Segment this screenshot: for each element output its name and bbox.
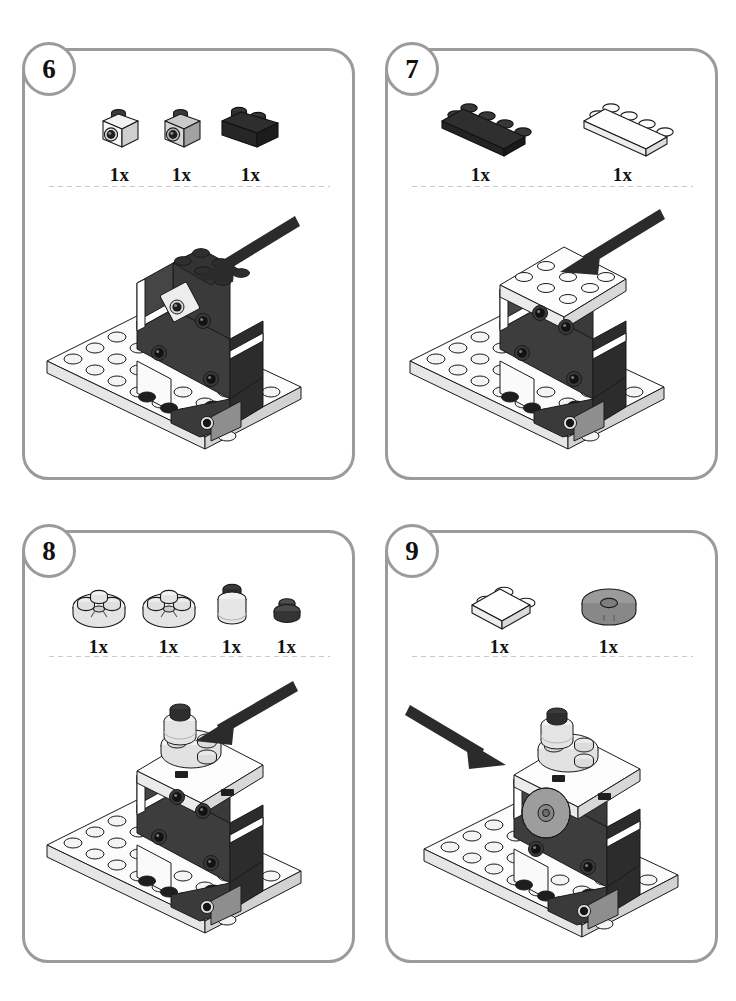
part-icon-brick-1x2-black [216, 95, 286, 157]
part-round-plate-2x2-white-b: 1x [136, 567, 202, 658]
parts-separator [410, 185, 693, 188]
step-badge-7: 7 [385, 42, 439, 96]
parts-row-6: 1x [25, 95, 352, 186]
step-panel-8: 1x [22, 530, 355, 963]
step-panel-7: 1x [385, 48, 718, 480]
assembly-arrow [195, 681, 298, 745]
parts-separator [47, 185, 330, 188]
part-icon-round-brick-1x1-white [211, 567, 253, 629]
step-number: 7 [405, 56, 419, 83]
assembly-model-6 [25, 201, 352, 476]
part-round-tile-2x2-gray: 1x [576, 567, 642, 658]
part-icon-plate-2x4-black [433, 95, 529, 157]
round-tile-on-model [522, 788, 570, 838]
parts-row-8: 1x [25, 567, 352, 658]
part-plate-2x2-white: 1x [462, 567, 538, 658]
parts-row-7: 1x [388, 95, 715, 186]
parts-bin-9: 1x 1x [388, 567, 715, 687]
part-qty: 1x [172, 164, 192, 186]
part-plate-2x4-black: 1x [433, 95, 529, 186]
parts-separator [47, 655, 330, 658]
assembly-model-7 [388, 201, 715, 476]
parts-bin-8: 1x [25, 567, 352, 687]
part-round-brick-1x1-white: 1x [206, 567, 258, 658]
step-number: 6 [42, 56, 56, 83]
part-icon-round-plate-1x1-dark [268, 567, 306, 629]
part-icon-round-plate-2x2-white-a [69, 567, 129, 629]
instruction-page: 1x [0, 0, 736, 1001]
assembly-arrow [405, 705, 506, 769]
assembly-arrow [560, 209, 665, 275]
parts-separator [410, 655, 693, 658]
step-badge-8: 8 [22, 524, 76, 578]
part-headlight-brick-white: 1x [89, 95, 151, 186]
part-round-plate-2x2-white-a: 1x [66, 567, 132, 658]
part-qty: 1x [613, 164, 633, 186]
part-icon-plate-2x2-white [462, 567, 538, 629]
step-number: 8 [42, 538, 56, 565]
part-icon-headlight-brick-gray [157, 95, 207, 157]
parts-row-9: 1x 1x [388, 567, 715, 658]
step-badge-9: 9 [385, 524, 439, 578]
step-panel-9: 1x 1x [385, 530, 718, 963]
part-qty: 1x [110, 164, 130, 186]
part-icon-round-plate-2x2-white-b [139, 567, 199, 629]
part-headlight-brick-gray: 1x [151, 95, 213, 186]
assembly-model-9 [388, 673, 715, 958]
part-qty: 1x [241, 164, 261, 186]
part-brick-1x2-black: 1x [213, 95, 289, 186]
part-plate-2x4-white: 1x [575, 95, 671, 186]
step-badge-6: 6 [22, 42, 76, 96]
part-icon-headlight-brick-white [94, 95, 146, 157]
part-icon-plate-2x4-white [575, 95, 671, 157]
part-round-plate-1x1-dark: 1x [262, 567, 312, 658]
step-panel-6: 1x [22, 48, 355, 480]
assembly-model-8 [25, 673, 352, 958]
step-number: 9 [405, 538, 419, 565]
part-icon-round-tile-2x2-gray [576, 567, 642, 629]
part-qty: 1x [471, 164, 491, 186]
